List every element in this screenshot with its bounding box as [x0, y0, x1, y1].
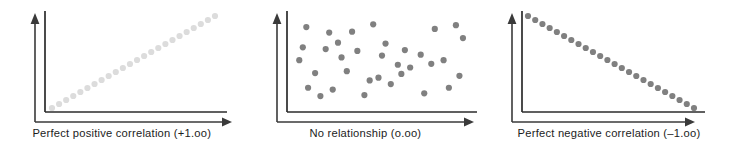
data-point — [691, 105, 697, 111]
data-point — [148, 49, 154, 55]
data-point — [361, 92, 367, 98]
data-point — [655, 85, 661, 91]
data-point — [375, 75, 381, 81]
chart-panel-positive: Perfect positive correlation (+1.oo) — [0, 0, 244, 150]
data-point — [401, 47, 407, 53]
chart-panel-negative: Perfect negative correlation (–1.oo) — [487, 0, 731, 150]
data-point — [354, 48, 360, 54]
data-point — [70, 93, 76, 99]
plot-frame-none — [287, 11, 477, 112]
data-point — [338, 54, 344, 60]
data-point — [155, 45, 161, 51]
data-point — [378, 52, 384, 58]
data-points-negative — [525, 13, 697, 111]
data-point — [113, 69, 119, 75]
data-point — [106, 73, 112, 79]
data-point — [63, 97, 69, 103]
data-point — [619, 65, 625, 71]
data-point — [329, 86, 335, 92]
data-point — [398, 71, 404, 77]
data-point — [597, 53, 603, 59]
data-point — [547, 25, 553, 31]
data-point — [349, 29, 355, 35]
data-point — [669, 93, 675, 99]
data-point — [317, 93, 323, 99]
data-point — [684, 101, 690, 107]
data-point — [141, 53, 147, 59]
data-point — [169, 37, 175, 43]
data-point — [440, 57, 446, 63]
data-point — [387, 81, 393, 87]
data-point — [540, 21, 546, 27]
data-point — [633, 73, 639, 79]
data-point — [662, 89, 668, 95]
outer-axes-positive — [31, 13, 232, 126]
data-point — [452, 22, 458, 28]
data-point — [417, 52, 423, 58]
data-point — [162, 41, 168, 47]
data-point — [299, 44, 305, 50]
correlation-figure: Perfect positive correlation (+1.oo) No … — [0, 0, 731, 150]
panel-caption-none: No relationship (o.oo) — [244, 126, 488, 140]
data-point — [590, 49, 596, 55]
data-point — [49, 105, 55, 111]
data-point — [198, 21, 204, 27]
data-point — [612, 61, 618, 67]
chart-panel-none: No relationship (o.oo) — [244, 0, 488, 150]
data-point — [191, 25, 197, 31]
data-point — [98, 77, 104, 83]
data-point — [677, 97, 683, 103]
data-point — [312, 70, 318, 76]
data-point — [525, 13, 531, 19]
data-point — [382, 41, 388, 47]
data-point — [407, 64, 413, 70]
data-point — [445, 85, 451, 91]
panel-caption-positive: Perfect positive correlation (+1.oo) — [0, 126, 244, 140]
data-point — [296, 57, 302, 63]
data-point — [532, 17, 538, 23]
data-point — [176, 33, 182, 39]
data-point — [604, 57, 610, 63]
data-point — [626, 69, 632, 75]
data-point — [127, 61, 133, 67]
data-point — [641, 77, 647, 83]
data-point — [459, 35, 465, 41]
outer-axes-negative — [508, 13, 695, 126]
data-point — [84, 85, 90, 91]
data-points-none — [296, 21, 466, 99]
data-point — [554, 29, 560, 35]
outer-axes-none — [272, 13, 473, 126]
data-point — [134, 57, 140, 63]
data-point — [561, 33, 567, 39]
data-point — [205, 17, 211, 23]
data-point — [648, 81, 654, 87]
data-point — [366, 77, 372, 83]
data-point — [305, 85, 311, 91]
panel-caption-negative: Perfect negative correlation (–1.oo) — [487, 126, 731, 140]
data-point — [394, 62, 400, 68]
data-point — [91, 81, 97, 87]
data-points-positive — [49, 13, 218, 111]
data-point — [326, 29, 332, 35]
data-point — [370, 21, 376, 27]
data-point — [322, 46, 328, 52]
data-point — [343, 68, 349, 74]
data-point — [303, 24, 309, 30]
data-point — [120, 65, 126, 71]
data-point — [421, 90, 427, 96]
data-point — [583, 45, 589, 51]
data-point — [212, 13, 218, 19]
data-point — [431, 26, 437, 32]
data-point — [568, 37, 574, 43]
data-point — [428, 61, 434, 67]
data-point — [456, 73, 462, 79]
data-point — [56, 101, 62, 107]
data-point — [77, 89, 83, 95]
data-point — [334, 40, 340, 46]
data-point — [184, 29, 190, 35]
data-point — [576, 41, 582, 47]
